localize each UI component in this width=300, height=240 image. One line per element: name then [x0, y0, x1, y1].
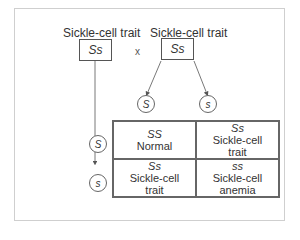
punnett-cell-Ss-top: Ss Sickle-cell trait	[196, 121, 279, 159]
cell-genotype: SS	[147, 128, 162, 140]
cell-phenotype: Normal	[137, 140, 172, 152]
cell-genotype: ss	[232, 160, 243, 172]
punnett-square: SS Normal Ss Sickle-cell trait Ss Sickle…	[112, 120, 280, 198]
cell-phenotype: Sickle-cell trait	[129, 172, 181, 196]
parent-1-label: Sickle-cell trait	[63, 26, 140, 40]
cell-genotype: Ss	[231, 122, 244, 134]
parent-1-genotype: Ss	[79, 39, 112, 61]
gamete-left-s: s	[89, 174, 107, 192]
gamete-left-S: S	[89, 135, 107, 153]
cell-phenotype: Sickle-cell trait	[212, 134, 264, 158]
cross-symbol: x	[135, 46, 140, 57]
cell-phenotype: Sickle-cell anemia	[207, 172, 269, 196]
punnett-cell-ss: ss Sickle-cell anemia	[196, 159, 279, 197]
cell-genotype: Ss	[148, 160, 161, 172]
gamete-top-S: S	[137, 95, 155, 113]
gamete-top-s: s	[199, 95, 217, 113]
punnett-cell-Ss-bottom: Ss Sickle-cell trait	[113, 159, 196, 197]
parent-2-genotype: Ss	[161, 38, 194, 60]
punnett-cell-SS: SS Normal	[113, 121, 196, 159]
